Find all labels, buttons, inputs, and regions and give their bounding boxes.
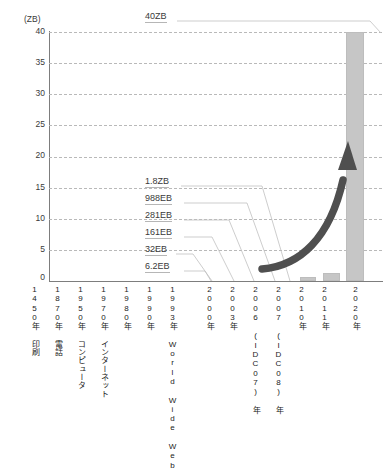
x-label-1980: 1980年 — [119, 285, 131, 331]
x-label-1870: 1870年 電話 — [50, 285, 62, 356]
x-label-2006: 2006 (IDC07) 年 — [248, 285, 260, 414]
callout-281eb: 281EB — [145, 210, 172, 222]
gridline-25 — [49, 125, 382, 126]
y-tick-10: 10 — [19, 213, 45, 223]
x-label-1993: 1993年 World Wide Web — [165, 285, 177, 470]
bar-2010 — [300, 277, 316, 281]
plot-area — [49, 32, 382, 281]
x-label-2003: 2003年 — [225, 285, 237, 331]
y-tick-15: 15 — [19, 182, 45, 192]
y-tick-30: 30 — [19, 88, 45, 98]
y-tick-35: 35 — [19, 57, 45, 67]
callout-988eb: 988EB — [145, 193, 172, 205]
y-tick-0: 0 — [19, 272, 45, 282]
gridline-10 — [49, 219, 382, 220]
x-label-2000: 2000年 — [202, 285, 214, 331]
y-tick-5: 5 — [19, 244, 45, 254]
x-label-1970: 1970年 インターネット — [96, 285, 108, 398]
y-tick-25: 25 — [19, 119, 45, 129]
callout-1-8zb: 1.8ZB — [145, 176, 169, 188]
x-label-2007: 2007 (IDC08) 年 — [271, 285, 283, 414]
clipped-header-text — [6, 0, 206, 7]
x-label-2020: 2020年 — [348, 285, 360, 331]
y-tick-20: 20 — [19, 150, 45, 160]
x-label-1450: 1450年 印刷 — [27, 285, 39, 356]
gridline-35 — [49, 63, 382, 64]
x-label-1990: 1990年 — [142, 285, 154, 331]
gridline-30 — [49, 94, 382, 95]
x-axis-labels: 1450年 印刷 1870年 電話 1950年 コンピュータ 1970年 インタ… — [0, 285, 389, 416]
x-label-2011: 2011年 — [317, 285, 329, 331]
gridline-20 — [49, 157, 382, 158]
x-label-1950: 1950年 コンピュータ — [73, 285, 85, 390]
gridline-15 — [49, 188, 382, 189]
callout-40zb: 40ZB — [145, 11, 167, 23]
callout-6-2eb: 6.2EB — [145, 261, 170, 273]
y-axis-unit-label: (ZB) — [24, 14, 41, 24]
x-axis-line — [49, 281, 383, 282]
x-label-2010: 2010年 — [294, 285, 306, 331]
y-tick-40: 40 — [19, 26, 45, 36]
gridline-40 — [49, 32, 382, 33]
callout-161eb: 161EB — [145, 227, 172, 239]
bar-2020 — [346, 32, 364, 281]
bar-2011 — [323, 273, 340, 281]
gridline-5 — [49, 250, 382, 251]
callout-32eb: 32EB — [145, 244, 167, 256]
